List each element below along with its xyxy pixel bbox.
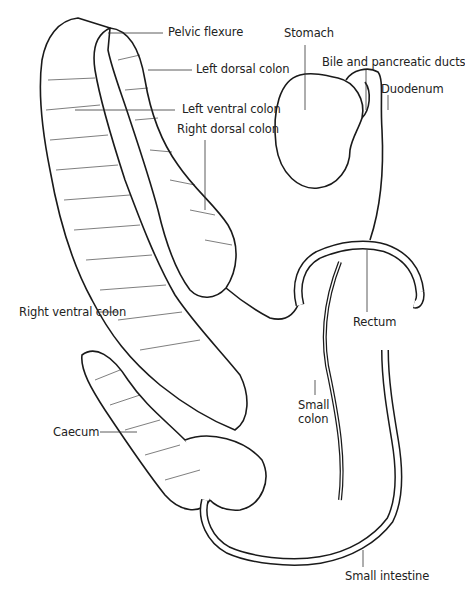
- label-small-colon: Small colon: [298, 398, 329, 426]
- label-bile-and-pancreatic-ducts: Bile and pancreatic ducts: [322, 56, 465, 69]
- label-left-ventral-colon: Left ventral colon: [182, 103, 281, 116]
- label-left-dorsal-colon: Left dorsal colon: [196, 63, 289, 76]
- label-rectum: Rectum: [353, 316, 396, 329]
- label-right-dorsal-colon: Right dorsal colon: [177, 123, 279, 136]
- label-caecum: Caecum: [53, 426, 99, 439]
- label-small-intestine: Small intestine: [345, 570, 429, 583]
- label-stomach: Stomach: [284, 27, 334, 40]
- label-pelvic-flexure: Pelvic flexure: [168, 26, 243, 39]
- label-small-colon-line2: colon: [298, 412, 329, 426]
- stomach-shape: [275, 74, 363, 188]
- label-right-ventral-colon: Right ventral colon: [19, 306, 126, 319]
- label-duodenum: Duodenum: [381, 83, 444, 96]
- label-small-colon-line1: Small: [298, 398, 329, 412]
